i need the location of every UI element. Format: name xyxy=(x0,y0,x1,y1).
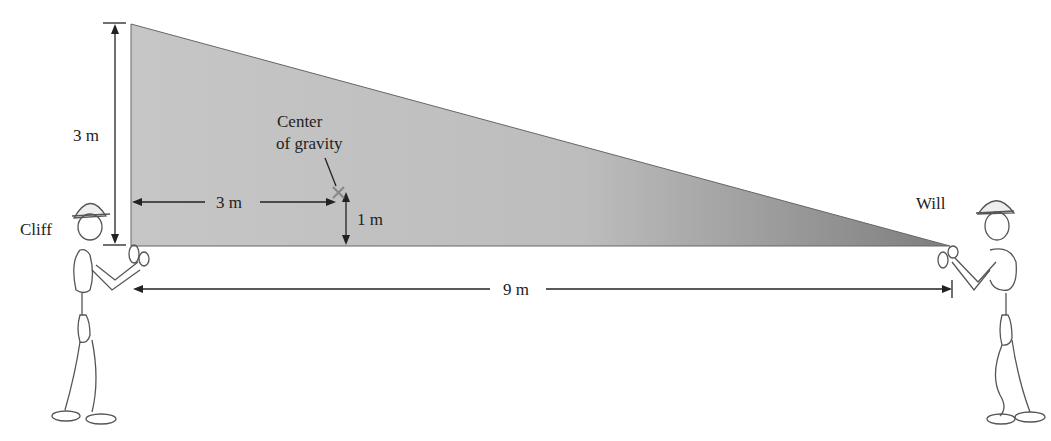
cg-vertical-label: 1 m xyxy=(357,210,383,229)
triangular-plate xyxy=(131,24,950,246)
diagram-canvas: 3 m 3 m 1 m Center of gravity 9 m Cliff xyxy=(0,0,1051,441)
person-will: Will xyxy=(916,194,1045,424)
base-dimension: 9 m xyxy=(133,280,952,299)
cg-title-line1: Center xyxy=(277,112,323,131)
person-cliff: Cliff xyxy=(20,203,149,424)
cg-horizontal-label: 3 m xyxy=(216,193,242,212)
person-right-label: Will xyxy=(916,194,946,213)
cg-title-line2: of gravity xyxy=(276,134,343,153)
base-label: 9 m xyxy=(503,280,529,299)
person-left-label: Cliff xyxy=(20,220,52,239)
height-label: 3 m xyxy=(73,126,99,145)
